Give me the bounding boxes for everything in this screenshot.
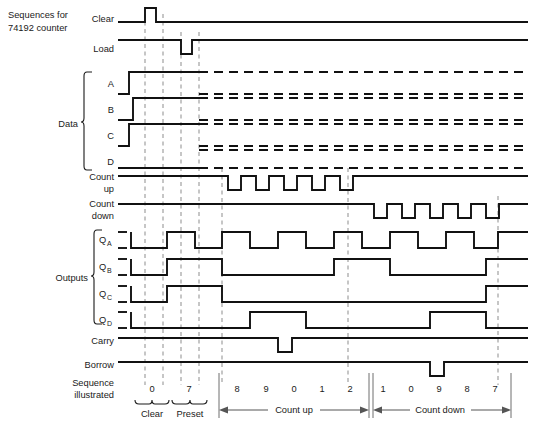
group-label-data: Data [58, 119, 78, 129]
phase-preset: Preset [172, 400, 207, 419]
label-carry: Carry [91, 336, 114, 346]
phase-label-clear: Clear [141, 409, 163, 419]
phase-count-up: Count up [219, 373, 369, 418]
phase-label-count-down: Count down [415, 405, 465, 415]
label-q-b-main: Q [99, 262, 106, 272]
phase-count-down: Count down [373, 373, 511, 418]
data-brace [81, 72, 92, 170]
seq-number: 7 [492, 384, 497, 394]
timing-diagram-svg: Sequences for 74192 counter Clear Load A… [0, 0, 539, 435]
count-up-arrowhead-right [360, 407, 369, 414]
seq-number: 0 [291, 384, 296, 394]
label-q-c: Q C [99, 289, 112, 301]
waveform-q-d [118, 312, 528, 328]
label-q-a: Q A [99, 235, 112, 247]
waveform-data-c [118, 124, 528, 146]
label-q-a-sub: A [107, 240, 112, 247]
label-load: Load [93, 44, 114, 54]
diagram-title: Sequences for 74192 counter [8, 10, 68, 33]
label-data-b: B [108, 105, 114, 115]
timing-diagram-page: Sequences for 74192 counter Clear Load A… [0, 0, 539, 435]
label-borrow: Borrow [85, 360, 115, 370]
label-clear: Clear [92, 14, 114, 24]
phase-label-preset: Preset [177, 409, 204, 419]
group-braces: Data Outputs [55, 72, 102, 324]
label-data-d: D [107, 157, 114, 167]
label-q-b-sub: B [107, 267, 112, 274]
seq-number: 8 [464, 384, 469, 394]
preset-brace [172, 400, 207, 404]
waveform-q-b [118, 259, 528, 275]
sequence-label-line1: Sequence [72, 378, 114, 388]
count-down-arrowhead-left [373, 407, 382, 414]
waveform-borrow [118, 362, 528, 376]
seq-number: 2 [347, 384, 352, 394]
seq-number: 0 [408, 384, 413, 394]
seq-number: 1 [380, 384, 385, 394]
label-q-a-main: Q [99, 235, 106, 245]
signal-labels: Clear Load A B C D Count up Count down Q… [85, 14, 115, 370]
clear-brace [135, 400, 169, 404]
seq-number: 7 [186, 384, 191, 394]
seq-number: 1 [319, 384, 324, 394]
seq-number: 0 [149, 384, 154, 394]
seq-number: 8 [234, 384, 239, 394]
waveform-q-c [118, 286, 528, 302]
phase-label-count-up: Count up [275, 405, 313, 415]
seq-number: 9 [263, 384, 268, 394]
sequence-label-line2: illustrated [74, 390, 114, 400]
count-up-arrowhead-left [219, 407, 228, 414]
label-count-down-2: down [92, 211, 114, 221]
label-q-b: Q B [99, 262, 112, 274]
waveform-data-a [118, 72, 528, 94]
waveform-load [118, 40, 528, 54]
label-q-d: Q D [99, 315, 112, 327]
label-count-up-2: up [104, 184, 114, 194]
waveform-count-down [118, 204, 528, 218]
count-down-arrowhead-right [502, 407, 511, 414]
waveform-count-up [118, 176, 528, 190]
label-count-up-1: Count [89, 172, 114, 182]
title-line2: 74192 counter [8, 23, 67, 33]
phase-clear: Clear [135, 400, 169, 419]
waveform-carry [118, 338, 528, 352]
sequence-illustrated-label: Sequence illustrated [72, 378, 114, 400]
waveform-data-d [118, 150, 528, 168]
sequence-numbers: 0 7 8 9 0 1 2 1 0 9 8 7 [149, 384, 497, 394]
waveform-clear [118, 8, 528, 22]
title-line1: Sequences for [8, 10, 68, 20]
label-q-c-main: Q [99, 289, 106, 299]
waveform-q-a [118, 232, 528, 248]
waveform-data-b [118, 98, 528, 120]
label-data-c: C [107, 131, 114, 141]
label-count-down-1: Count [89, 199, 114, 209]
label-data-a: A [108, 79, 115, 89]
group-label-outputs: Outputs [55, 273, 88, 283]
vertical-guides [145, 14, 498, 385]
label-q-d-sub: D [107, 320, 112, 327]
label-q-c-sub: C [107, 294, 112, 301]
seq-number: 9 [436, 384, 441, 394]
